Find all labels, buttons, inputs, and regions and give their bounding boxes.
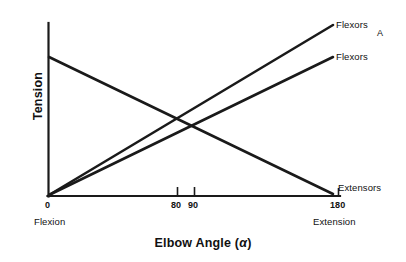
series-label-flexors-a: Flexors (336, 20, 368, 30)
x-tick-label-90: 90 (188, 201, 198, 210)
series-label-extensors-text: Extensors (338, 182, 381, 193)
x-axis-title: Elbow Angle (α) (0, 236, 406, 250)
x-axis-title-main: Elbow Angle ( (154, 236, 239, 250)
x-tick-label-180: 180 (330, 201, 345, 210)
x-axis-end-label-extension: Extension (313, 217, 356, 227)
series-label-flexors-a-text: Flexors (336, 19, 368, 30)
series-label-flexors-text: Flexors (336, 51, 368, 62)
series-label-flexors: Flexors (336, 52, 368, 62)
y-axis-title: Tension (31, 61, 45, 131)
series-label-extensors: Extensors (338, 183, 381, 193)
x-tick-label-80: 80 (171, 201, 181, 210)
x-axis-title-alpha: α (239, 236, 247, 250)
series-label-flexors-a-superscript: A (377, 28, 383, 38)
series-line-flexors-a (49, 25, 333, 195)
x-axis-end-label-flexion: Flexion (34, 217, 65, 227)
x-tick-label-0: 0 (45, 201, 50, 210)
chart-figure: Flexors A Flexors Extensors 0 80 90 180 … (0, 0, 406, 262)
x-axis-title-close: ) (247, 236, 251, 250)
